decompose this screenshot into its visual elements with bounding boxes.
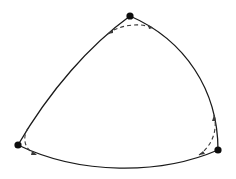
- vertex-right: [214, 146, 221, 153]
- edge-top-left: [18, 16, 130, 145]
- dashed-corner-top: [108, 25, 153, 34]
- arrowhead-top-left: [108, 29, 113, 34]
- edge-right-top: [130, 16, 218, 150]
- curved-triangle-diagram: [0, 0, 236, 179]
- vertex-top: [126, 12, 133, 19]
- edge-left-right: [18, 145, 218, 168]
- arrowhead-right-bottom: [199, 151, 205, 155]
- vertex-left: [14, 141, 21, 148]
